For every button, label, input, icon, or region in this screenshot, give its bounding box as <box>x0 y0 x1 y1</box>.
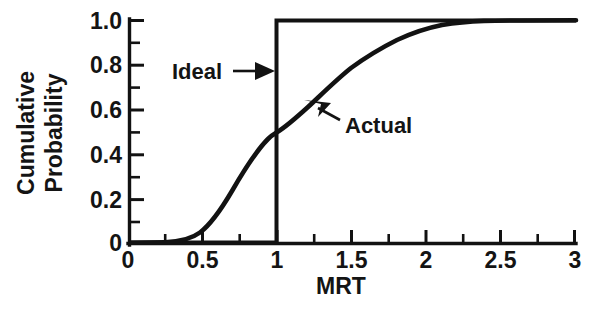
y-axis-ticks <box>131 21 144 223</box>
cumulative-probability-chart: 1.0 0.8 0.6 0.4 0.2 0 0 0.5 1 1.5 2 2.5 … <box>0 0 604 322</box>
y-tick-label-0.2: 0.2 <box>90 187 122 213</box>
y-tick-label-0.8: 0.8 <box>90 52 122 78</box>
x-tick-label-2: 2 <box>420 247 433 273</box>
y-tick-label-0.6: 0.6 <box>90 97 122 123</box>
y-tick-label-1.0: 1.0 <box>90 8 122 34</box>
y-tick-label-0.4: 0.4 <box>90 142 122 168</box>
x-tick-label-0: 0 <box>122 247 135 273</box>
x-tick-label-0.5: 0.5 <box>187 247 219 273</box>
x-tick-label-2.5: 2.5 <box>485 247 517 273</box>
y-tick-label-0: 0 <box>109 230 122 256</box>
x-tick-label-3: 3 <box>569 247 582 273</box>
y-tick-labels: 1.0 0.8 0.6 0.4 0.2 0 <box>90 8 122 256</box>
annotation-ideal: Ideal <box>172 59 275 84</box>
annotation-actual: Actual <box>304 100 412 138</box>
x-axis-ticks <box>165 230 574 242</box>
annotation-ideal-label: Ideal <box>172 59 222 84</box>
annotation-actual-label: Actual <box>345 113 412 138</box>
y-axis-title: Cumulative Probability <box>13 71 67 195</box>
x-tick-labels: 0 0.5 1 1.5 2 2.5 3 <box>122 247 582 273</box>
chart-figure: 1.0 0.8 0.6 0.4 0.2 0 0 0.5 1 1.5 2 2.5 … <box>0 0 604 322</box>
x-axis-title: MRT <box>316 273 366 299</box>
y-axis-title-line1: Cumulative <box>13 71 39 195</box>
x-tick-label-1.5: 1.5 <box>336 247 368 273</box>
annotation-ideal-arrowhead-icon <box>255 62 275 80</box>
y-axis-title-line2: Probability <box>41 73 67 192</box>
x-tick-label-1: 1 <box>271 247 284 273</box>
